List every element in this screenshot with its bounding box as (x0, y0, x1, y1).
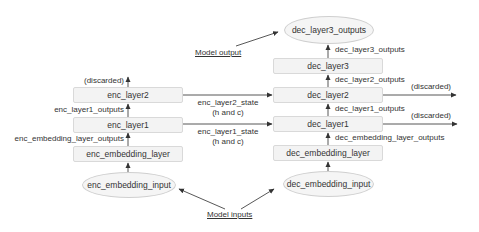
dec-layer1-label: dec_layer1 (307, 119, 349, 129)
enc-embedding-input-label: enc_embedding_input (87, 180, 171, 190)
dec-layer1-discarded-label: (discarded) (411, 111, 451, 121)
enc-embedding-input-node[interactable]: enc_embedding_input (82, 172, 176, 198)
enc-layer1-state-line1: enc_layer1_state (195, 127, 261, 137)
enc-layer1-state-label: enc_layer1_state (h and c) (195, 127, 261, 147)
dec-layer2-discarded-label: (discarded) (411, 82, 451, 92)
enc-layer1-label: enc_layer1 (107, 120, 149, 130)
enc-layer1-box[interactable]: enc_layer1 (73, 117, 183, 133)
dec-embedding-input-node[interactable]: dec_embedding_input (283, 171, 374, 197)
dec-layer2-label: dec_layer2 (307, 90, 349, 100)
dec-layer3-label: dec_layer3 (307, 61, 349, 71)
model-inputs-annotation: Model inputs (207, 210, 252, 220)
dec-embedding-layer-box[interactable]: dec_embedding_layer (273, 145, 383, 161)
dec-layer2-outputs-edge-label: dec_layer2_outputs (335, 75, 405, 85)
dec-layer1-outputs-edge-label: dec_layer1_outputs (335, 104, 405, 114)
enc-layer2-state-line1: enc_layer2_state (195, 98, 261, 108)
enc-layer2-state-line2: (h and c) (195, 108, 261, 118)
enc-layer1-outputs-label: enc_layer1_outputs (54, 105, 124, 115)
enc-layer2-label: enc_layer2 (107, 90, 149, 100)
dec-layer1-box[interactable]: dec_layer1 (273, 116, 383, 132)
dec-layer3-box[interactable]: dec_layer3 (273, 58, 383, 74)
dec-embedding-layer-outputs-edge-label: dec_embedding_layer_outputs (335, 133, 444, 143)
model-output-annotation: Model output (195, 48, 241, 58)
enc-layer2-discarded-label: (discarded) (84, 76, 124, 86)
dec-layer3-outputs-edge-label: dec_layer3_outputs (335, 45, 405, 55)
enc-layer2-box[interactable]: enc_layer2 (73, 87, 183, 103)
dec-embedding-input-label: dec_embedding_input (287, 179, 371, 189)
enc-layer2-state-label: enc_layer2_state (h and c) (195, 98, 261, 118)
enc-embedding-layer-box[interactable]: enc_embedding_layer (73, 146, 183, 162)
dec-layer3-outputs-node-label: dec_layer3_outputs (292, 25, 366, 35)
enc-layer1-state-line2: (h and c) (195, 137, 261, 147)
dec-layer2-box[interactable]: dec_layer2 (273, 87, 383, 103)
dec-embedding-layer-label: dec_embedding_layer (286, 148, 370, 158)
dec-layer3-outputs-node[interactable]: dec_layer3_outputs (284, 16, 374, 44)
enc-embedding-layer-label: enc_embedding_layer (86, 149, 170, 159)
enc-embedding-layer-outputs-label: enc_embedding_layer_outputs (15, 134, 124, 144)
